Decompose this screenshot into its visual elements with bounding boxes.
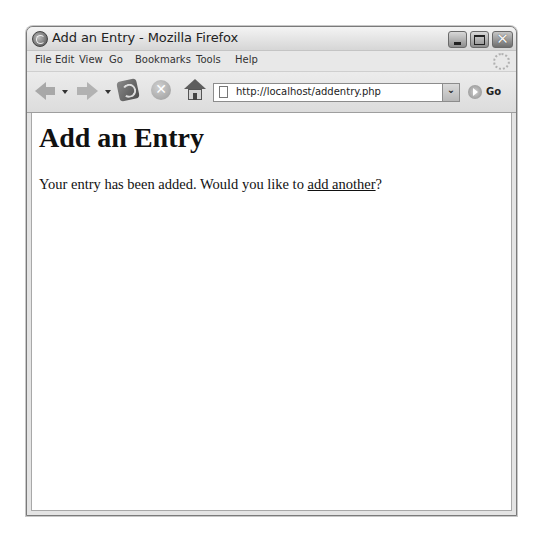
page-content: Add an Entry Your entry has been added. … — [31, 113, 512, 511]
menu-bookmarks[interactable]: Bookmarks — [135, 54, 191, 65]
url-history-dropdown[interactable]: ⌄ — [442, 84, 459, 101]
menu-tools[interactable]: Tools — [196, 54, 221, 65]
home-icon-door — [193, 93, 197, 100]
address-bar[interactable]: ⌄ — [213, 83, 460, 102]
maximize-button[interactable] — [470, 31, 489, 48]
menu-edit[interactable]: Edit — [55, 54, 74, 65]
menu-view[interactable]: View — [79, 54, 103, 65]
back-arrow-tail — [45, 87, 55, 95]
menu-help[interactable]: Help — [235, 54, 258, 65]
reload-icon[interactable] — [116, 78, 140, 102]
home-button[interactable] — [184, 79, 206, 101]
throbber-icon — [493, 53, 510, 70]
close-icon: ✕ — [493, 30, 512, 48]
minimize-button[interactable] — [448, 31, 467, 48]
menu-bar: File Edit View Go Bookmarks Tools Help — [27, 51, 516, 72]
forward-arrow-tail — [77, 87, 87, 95]
window-title: Add an Entry - Mozilla Firefox — [52, 30, 238, 45]
forward-arrow-icon — [87, 82, 98, 100]
add-another-link[interactable]: add another — [308, 176, 376, 192]
title-bar[interactable]: Add an Entry - Mozilla Firefox ✕ — [27, 27, 516, 51]
chevron-down-icon: ⌄ — [443, 84, 459, 95]
confirmation-message: Your entry has been added. Would you lik… — [39, 176, 382, 193]
go-button[interactable]: Go — [486, 86, 501, 97]
back-history-dropdown-icon[interactable] — [62, 90, 68, 94]
stop-button[interactable]: ✕ — [151, 80, 171, 100]
page-heading: Add an Entry — [39, 122, 204, 154]
url-input[interactable] — [236, 86, 436, 97]
firefox-logo-icon — [32, 31, 48, 47]
message-suffix: ? — [376, 176, 382, 192]
navigation-toolbar: ✕ ⌄ Go — [27, 72, 516, 113]
go-icon[interactable] — [468, 85, 482, 99]
close-button[interactable]: ✕ — [492, 31, 513, 48]
stop-icon: ✕ — [151, 81, 171, 97]
menu-go[interactable]: Go — [109, 54, 123, 65]
forward-history-dropdown-icon[interactable] — [105, 90, 111, 94]
page-icon — [219, 86, 228, 98]
message-text: Your entry has been added. Would you lik… — [39, 176, 308, 192]
browser-window: Add an Entry - Mozilla Firefox ✕ File Ed… — [26, 26, 517, 516]
menu-file[interactable]: File — [35, 54, 52, 65]
home-icon — [184, 79, 206, 89]
